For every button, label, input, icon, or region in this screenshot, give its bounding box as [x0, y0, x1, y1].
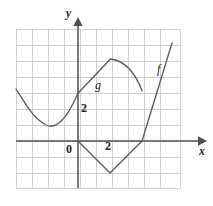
curve-label-f: f — [157, 63, 160, 75]
x-axis-label: x — [199, 146, 205, 158]
axis-x — [16, 136, 207, 146]
grid — [16, 29, 180, 188]
x-tick-label-2: 2 — [105, 140, 111, 152]
y-tick-label-2: 2 — [81, 102, 87, 114]
y-axis-label: y — [66, 8, 71, 20]
curve-label-g: g — [95, 79, 101, 91]
y-axis-arrowhead — [73, 17, 82, 26]
graph-canvas — [0, 0, 213, 206]
origin-label: 0 — [66, 143, 72, 155]
graph-figure: y x 0 2 2 g f — [0, 0, 213, 206]
